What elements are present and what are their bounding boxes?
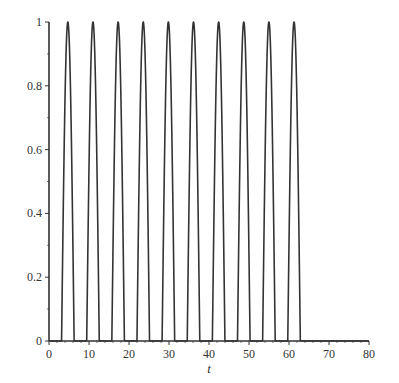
y-tick-label: 0.4 [27,206,42,220]
x-axis-label: t [207,361,211,376]
x-tick-label: 50 [243,347,255,361]
y-tick-label: 0.8 [27,79,42,93]
tick-labels: 0102030405060708000.20.40.60.81 [27,15,375,361]
ticks [45,22,369,345]
x-tick-label: 40 [203,347,215,361]
x-tick-label: 80 [363,347,375,361]
pulse-chart: 0102030405060708000.20.40.60.81 t [0,0,399,383]
x-tick-label: 70 [323,347,335,361]
y-tick-label: 1 [36,15,42,29]
y-tick-label: 0.6 [27,143,42,157]
x-tick-label: 60 [283,347,295,361]
y-tick-label: 0.2 [27,270,42,284]
series-line [49,22,369,341]
x-tick-label: 0 [46,347,52,361]
y-tick-label: 0 [36,334,42,348]
x-tick-label: 30 [163,347,175,361]
x-tick-label: 10 [83,347,95,361]
chart-container: 0102030405060708000.20.40.60.81 t [0,0,399,383]
x-tick-label: 20 [123,347,135,361]
